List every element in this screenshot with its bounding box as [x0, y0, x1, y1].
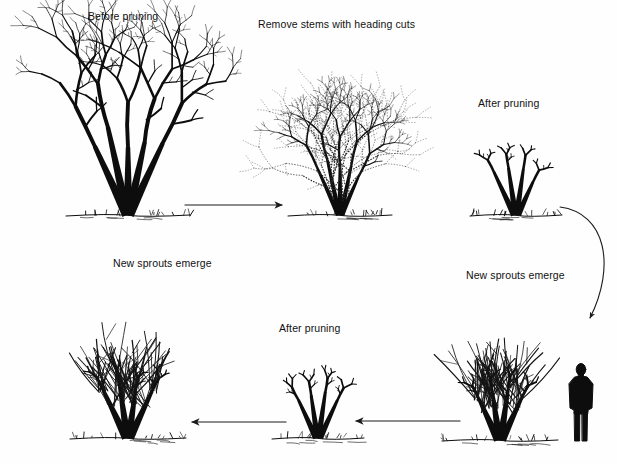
ground-debris — [148, 443, 157, 444]
branch-segment — [491, 152, 495, 153]
ground-litter — [340, 435, 341, 438]
label-new-sprouts-left: New sprouts emerge — [113, 258, 212, 269]
branch-segment — [141, 46, 147, 68]
branch-segment — [208, 26, 213, 34]
branch-segment — [70, 18, 76, 23]
branch-segment — [95, 0, 103, 2]
branch-segment — [402, 143, 408, 144]
branch-segment — [510, 145, 515, 147]
branch-segment — [64, 28, 71, 37]
branch-segment — [298, 94, 303, 104]
branch-segment — [265, 126, 269, 131]
branch-segment — [297, 103, 298, 109]
branch-segment — [289, 374, 293, 379]
branch-segment — [490, 149, 491, 153]
branch-segment — [400, 123, 404, 125]
branch-segment — [405, 89, 417, 100]
branch-segment — [152, 25, 160, 28]
branch-segment — [298, 98, 301, 100]
branch-segment — [361, 73, 362, 86]
branch-segment — [286, 392, 289, 393]
sprout — [452, 345, 475, 398]
branch-segment — [206, 24, 208, 34]
branch-segment — [303, 371, 304, 375]
branch-segment — [360, 95, 362, 100]
branch-segment — [103, 66, 117, 79]
ground-debris — [323, 442, 342, 443]
branch-segment — [321, 112, 325, 114]
branch-segment — [376, 72, 380, 86]
ground-litter — [553, 212, 555, 216]
branch-segment — [25, 64, 27, 68]
branch-segment — [300, 97, 301, 101]
branch-segment — [479, 150, 480, 155]
branch-segment — [289, 146, 306, 147]
ground-litter — [526, 435, 529, 441]
branch-segment — [498, 146, 502, 148]
branch-segment — [112, 57, 119, 65]
branch-segment — [16, 72, 21, 75]
branch-segment — [183, 29, 190, 30]
branch-segment — [390, 153, 397, 160]
branch-segment — [368, 94, 371, 98]
ground-litter — [510, 436, 511, 440]
branch-segment — [395, 138, 399, 143]
branch-segment — [533, 160, 536, 163]
ground-debris — [157, 440, 170, 441]
branch-segment — [81, 49, 87, 54]
ground-debris — [160, 442, 175, 443]
branch-segment — [273, 90, 284, 99]
branch-segment — [366, 93, 368, 98]
branch-segment — [277, 138, 280, 140]
ground-litter — [543, 209, 546, 215]
branch-segment — [417, 107, 431, 117]
branch-segment — [257, 110, 270, 112]
ground-litter — [184, 210, 186, 216]
branch-segment — [205, 95, 213, 99]
branch-segment — [232, 47, 234, 55]
branch-segment — [391, 105, 393, 109]
branch-segment — [58, 0, 66, 5]
branch-segment — [341, 380, 343, 388]
branch-segment — [87, 0, 89, 5]
branch-segment — [117, 59, 123, 79]
branch-segment — [193, 62, 199, 67]
branch-segment — [302, 100, 304, 106]
branch-segment — [114, 26, 119, 30]
branch-segment — [273, 168, 303, 175]
branch-segment — [184, 15, 186, 21]
branch-segment — [73, 91, 86, 96]
branch-segment — [417, 117, 432, 118]
ground-litter — [353, 210, 355, 214]
branch-segment — [334, 82, 336, 89]
stage-3-after-pruning-top — [470, 143, 562, 220]
branch-segment — [488, 160, 494, 172]
branch-segment — [79, 40, 83, 41]
branch-segment — [378, 153, 402, 155]
branch-segment — [52, 19, 57, 37]
branch-segment — [397, 111, 400, 116]
branch-segment — [353, 95, 356, 96]
branch-segment — [260, 99, 269, 112]
ground-debris — [137, 219, 152, 220]
branch-segment — [32, 17, 38, 28]
ground-litter — [443, 435, 444, 441]
branch-segment — [391, 138, 393, 140]
branch-segment — [415, 138, 428, 143]
branch-segment — [270, 132, 274, 134]
branch-segment — [243, 140, 259, 147]
branch-segment — [358, 146, 366, 156]
branch-segment — [254, 168, 273, 169]
ground-litter — [180, 432, 183, 437]
branch-segment — [536, 377, 538, 382]
branch-segment — [229, 58, 233, 61]
branch-segment — [325, 85, 327, 90]
branch-segment — [351, 93, 352, 97]
branch-segment — [192, 70, 196, 80]
ground-litter — [126, 435, 127, 437]
branch-segment — [363, 97, 368, 100]
branch-segment — [332, 103, 334, 107]
branch-segment — [283, 87, 286, 100]
branch-segment — [303, 95, 304, 100]
branch-segment — [280, 140, 289, 147]
